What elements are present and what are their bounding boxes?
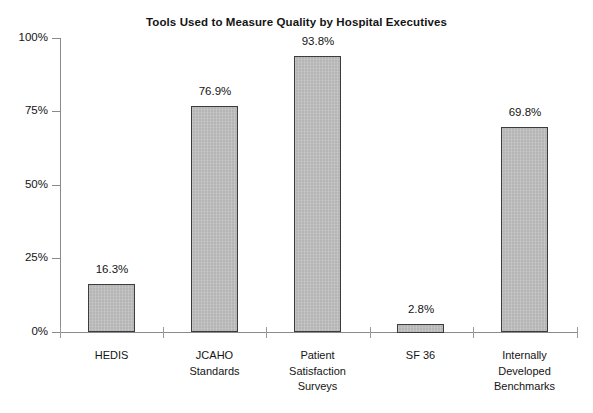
x-axis-tick	[577, 327, 578, 338]
bar-patient-satisfaction-surveys[interactable]	[294, 56, 341, 332]
bar-value-sf-36: 2.8%	[381, 303, 461, 315]
bar-value-internally-developed-benchmarks: 69.8%	[485, 106, 565, 118]
x-axis-category-patient-satisfaction-surveys: Patient Satisfaction Surveys	[267, 348, 368, 395]
y-axis-tick	[52, 38, 61, 39]
x-axis-tick	[266, 327, 267, 338]
y-axis-tick	[52, 111, 61, 112]
chart-plot-area: 0% 25% 50% 75% 100% 16.3% HEDIS 76.9% JC…	[0, 0, 593, 413]
x-axis-tick	[60, 327, 61, 338]
bar-value-hedis: 16.3%	[72, 263, 152, 275]
category-line: Standards	[164, 364, 265, 380]
bar-hedis[interactable]	[88, 284, 135, 332]
x-axis-category-jcaho-standards: JCAHO Standards	[164, 348, 265, 379]
category-line: Internally	[474, 348, 575, 364]
x-axis-tick	[163, 327, 164, 338]
category-line: Surveys	[267, 379, 368, 395]
x-axis-category-internally-developed-benchmarks: Internally Developed Benchmarks	[474, 348, 575, 395]
y-axis-label-100: 100%	[2, 31, 48, 43]
y-axis-tick	[52, 185, 61, 186]
y-axis-label-0: 0%	[2, 325, 48, 337]
category-line: HEDIS	[61, 348, 162, 364]
category-line: Benchmarks	[474, 379, 575, 395]
x-axis-line	[60, 332, 578, 333]
bar-value-jcaho-standards: 76.9%	[175, 85, 255, 97]
bar-jcaho-standards[interactable]	[191, 106, 238, 332]
category-line: SF 36	[370, 348, 471, 364]
bar-value-patient-satisfaction-surveys: 93.8%	[278, 35, 358, 47]
x-axis-category-hedis: HEDIS	[61, 348, 162, 364]
y-axis-label-75: 75%	[2, 104, 48, 116]
category-line: Satisfaction	[267, 364, 368, 380]
y-axis-label-50: 50%	[2, 178, 48, 190]
x-axis-tick	[370, 327, 371, 338]
category-line: JCAHO	[164, 348, 265, 364]
y-axis-label-25: 25%	[2, 251, 48, 263]
category-line: Patient	[267, 348, 368, 364]
x-axis-tick	[473, 327, 474, 338]
y-axis-tick	[52, 258, 61, 259]
bar-sf-36[interactable]	[397, 324, 444, 333]
x-axis-category-sf-36: SF 36	[370, 348, 471, 364]
bar-internally-developed-benchmarks[interactable]	[501, 127, 548, 332]
category-line: Developed	[474, 364, 575, 380]
